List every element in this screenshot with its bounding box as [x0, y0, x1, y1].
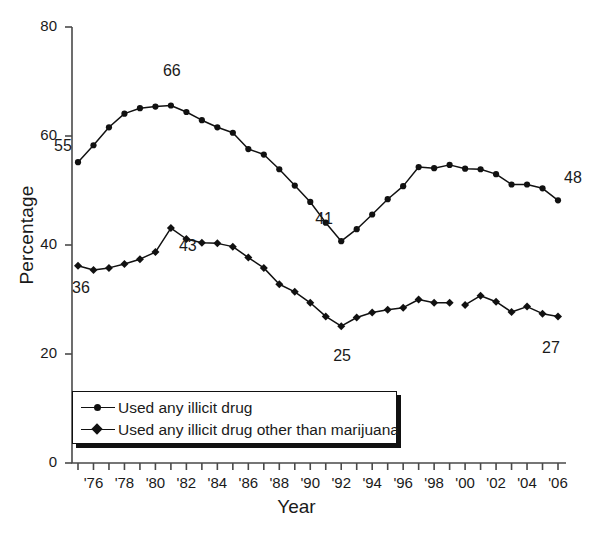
y-tick-label-20: 20 [17, 344, 57, 361]
y-tick-label-60: 60 [17, 126, 57, 143]
x-tick-label-06: '06 [538, 474, 578, 491]
data-label-66-1981: 66 [163, 62, 181, 80]
line-chart-plot [0, 0, 593, 535]
y-tick-label-40: 40 [17, 235, 57, 252]
data-label-41-1992: 41 [315, 210, 333, 228]
legend-label-1: Used any illicit drug other than marijua… [118, 421, 399, 439]
data-label-27-2006: 27 [542, 339, 560, 357]
legend-item-used-any-illicit-drug-other-than-marijuana: Used any illicit drug other than marijua… [81, 419, 388, 440]
x-axis-label: Year [0, 496, 593, 518]
data-label-25-1992: 25 [333, 347, 351, 365]
data-label-43-1981: 43 [179, 237, 197, 255]
legend: Used any illicit drug Used any illicit d… [72, 391, 397, 444]
chart-container: Percentage Year 020406080 '76'78'80'82'8… [0, 0, 593, 535]
data-label-55-1975: 55 [54, 137, 72, 155]
data-label-48-2006: 48 [564, 169, 582, 187]
y-tick-label-80: 80 [17, 17, 57, 34]
legend-label-0: Used any illicit drug [118, 399, 252, 417]
y-tick-label-0: 0 [17, 453, 57, 470]
data-label-36-1975: 36 [72, 279, 90, 297]
legend-circle-marker-icon [81, 401, 115, 415]
legend-diamond-marker-icon [81, 423, 115, 437]
legend-item-used-any-illicit-drug: Used any illicit drug [81, 397, 388, 418]
